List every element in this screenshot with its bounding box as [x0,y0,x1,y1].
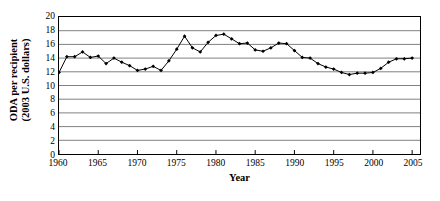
data-point [410,56,414,60]
y-axis-tick-label: 18 [30,25,55,35]
data-point [395,57,399,61]
x-axis-tick-label: 1995 [325,158,344,169]
y-axis-tick-label: 4 [30,122,55,132]
x-axis-tick-marks [59,150,412,154]
x-axis-tick-label: 1965 [88,158,107,169]
data-point [324,65,328,69]
x-axis-tick-label: 1970 [127,158,146,169]
y-axis-tick-label: 14 [30,53,55,63]
y-axis-tick-labels: 02468101214161820 [30,16,55,155]
line-chart-svg [59,17,420,154]
y-axis-title-line1: ODA per recipient [8,39,20,122]
data-point [340,71,344,75]
data-line [59,34,412,74]
x-axis-tick-label: 1960 [49,158,68,169]
x-axis-tick-label: 2005 [404,158,423,169]
gridlines [59,31,420,141]
data-point [151,64,155,68]
y-axis-tick-label: 12 [30,67,55,77]
y-axis-tick-label: 16 [30,39,55,49]
data-point [347,73,351,77]
chart-figure: ODA per recipient (2003 U.S. dollars) 02… [0,0,440,201]
data-point [371,71,375,75]
x-axis-tick-label: 1985 [246,158,265,169]
x-axis-tick-label: 1990 [285,158,304,169]
data-point [332,67,336,71]
data-point [143,67,147,71]
y-axis-tick-label: 20 [30,11,55,21]
y-axis-tick-label: 8 [30,94,55,104]
x-axis-tick-label: 2000 [364,158,383,169]
data-point-markers [59,32,414,76]
x-axis-tick-label: 1980 [206,158,225,169]
x-axis-tick-label: 1975 [167,158,186,169]
y-axis-tick-label: 2 [30,136,55,146]
x-axis-title: Year [58,172,421,183]
data-point [261,49,265,53]
x-axis-tick-labels: 1960196519701975198019851990199520002005 [58,158,421,172]
plot-area [58,16,421,155]
y-axis-tick-label: 6 [30,108,55,118]
data-point [120,60,124,64]
y-axis-tick-label: 10 [30,81,55,91]
data-point [402,57,406,61]
